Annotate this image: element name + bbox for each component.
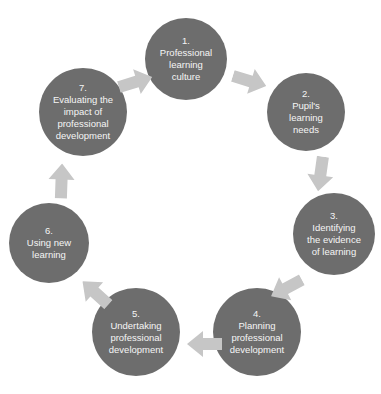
step-3-number: 3. — [330, 210, 338, 222]
step-2-circle: 2. Pupil's learning needs — [267, 73, 345, 151]
step-6-number: 6. — [45, 225, 53, 237]
cycle-diagram: 1. Professional learning culture 2. Pupi… — [0, 0, 381, 394]
arrow-step1-to-step2-icon — [228, 62, 270, 101]
arrow-shape — [115, 64, 156, 99]
step-5-number: 5. — [132, 308, 140, 320]
step-2-number: 2. — [302, 88, 310, 100]
step-2-label: Pupil's learning needs — [284, 100, 328, 136]
step-4-label: Planning professional development — [226, 320, 288, 356]
step-1-label: Professional learning culture — [157, 47, 215, 83]
step-7-circle: 7. Evaluating the impact of professional… — [39, 68, 127, 156]
arrow-shape — [187, 331, 222, 357]
step-5-label: Undertaking professional development — [105, 320, 167, 356]
step-6-circle: 6. Using new learning — [9, 203, 89, 283]
arrow-step4-to-step5-icon — [187, 329, 222, 359]
step-6-label: Using new learning — [23, 237, 75, 261]
step-7-label: Evaluating the impact of professional de… — [52, 94, 114, 143]
arrow-step6-to-step7-icon — [46, 163, 77, 199]
arrow-shape — [229, 63, 270, 98]
step-3-label: Identifying the evidence of learning — [306, 222, 362, 258]
arrow-shape — [305, 155, 336, 193]
step-4-number: 4. — [253, 308, 261, 320]
arrow-step2-to-step3-icon — [303, 155, 338, 194]
step-3-circle: 3. Identifying the evidence of learning — [293, 193, 375, 275]
step-1-number: 1. — [182, 35, 190, 47]
arrow-shape — [48, 163, 75, 199]
step-7-number: 7. — [79, 82, 87, 94]
step-1-circle: 1. Professional learning culture — [145, 18, 227, 100]
